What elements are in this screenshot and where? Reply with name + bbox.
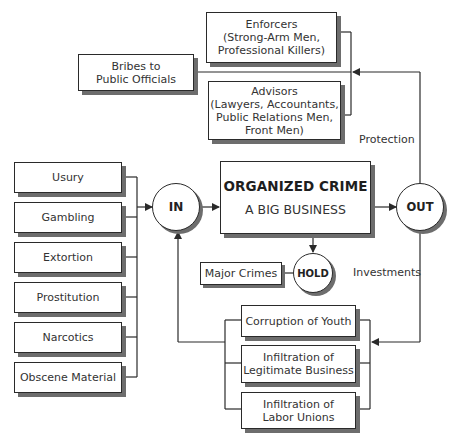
input-label: Extortion [43,251,93,264]
central-title: ORGANIZED CRIME [223,180,367,193]
enforcers-box: Enforcers (Strong-Arm Men, Professional … [206,12,337,63]
investments-label: Investments [353,266,421,279]
central-subtitle: A BIG BUSINESS [245,203,346,216]
input-box-gambling: Gambling [14,202,122,233]
out-node: OUT [396,183,444,231]
enforcers-label: Enforcers (Strong-Arm Men, Professional … [218,18,325,57]
investment-box-labor-unions: Infiltration of Labor Unions [241,392,356,429]
bribes-label: Bribes to Public Officials [96,60,176,86]
input-box-extortion: Extortion [14,242,122,273]
advisors-label: Advisors (Lawyers, Accountants, Public R… [210,85,338,137]
input-box-usury: Usury [14,162,122,193]
input-label: Usury [52,171,84,184]
input-label: Narcotics [42,331,93,344]
investment-label: Corruption of Youth [245,315,351,328]
out-label: OUT [407,200,434,214]
in-node: IN [152,183,200,231]
input-label: Gambling [41,211,94,224]
input-box-narcotics: Narcotics [14,322,122,353]
investment-box-corruption-of-youth: Corruption of Youth [241,305,356,337]
input-box-obscene-material: Obscene Material [14,362,122,393]
investment-label: Infiltration of Labor Unions [262,398,334,424]
investment-box-legitimate-business: Infiltration of Legitimate Business [241,345,356,383]
input-label: Obscene Material [20,371,116,384]
investment-label: Infiltration of Legitimate Business [243,351,354,377]
central-box: ORGANIZED CRIME A BIG BUSINESS [220,161,371,234]
advisors-box: Advisors (Lawyers, Accountants, Public R… [208,81,341,140]
major-crimes-box: Major Crimes [200,262,282,285]
hold-node: HOLD [293,253,333,293]
in-label: IN [169,200,184,214]
input-label: Prostitution [37,291,100,304]
bribes-box: Bribes to Public Officials [78,54,194,91]
hold-label: HOLD [297,268,329,279]
organized-crime-diagram: Enforcers (Strong-Arm Men, Professional … [0,0,456,439]
protection-label: Protection [359,133,415,146]
input-box-prostitution: Prostitution [14,282,122,313]
major-crimes-label: Major Crimes [205,267,278,280]
